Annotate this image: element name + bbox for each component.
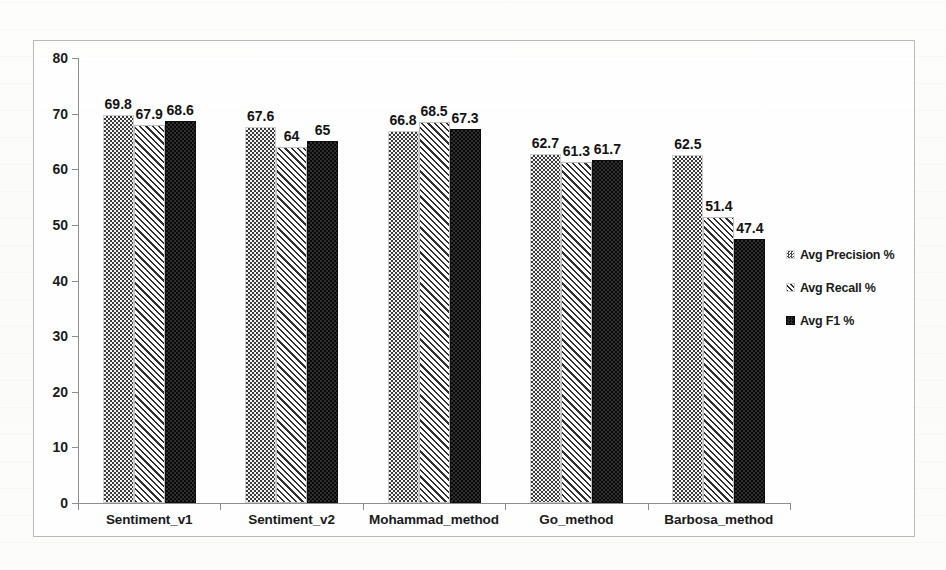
x-axis-tick — [363, 503, 364, 510]
y-axis-tick — [72, 447, 79, 448]
y-axis-tick-label: 60 — [28, 161, 68, 177]
bar-avg-precision — [530, 154, 561, 503]
legend-item[interactable]: Avg Recall % — [786, 281, 911, 294]
x-axis-line — [78, 503, 791, 504]
legend-item[interactable]: Avg F1 % — [786, 314, 911, 327]
bar-avg-recall — [561, 162, 592, 503]
bar-avg-precision — [103, 115, 134, 503]
y-axis-tick — [72, 281, 79, 282]
bar-avg-precision — [245, 127, 276, 503]
bar-value-label: 62.5 — [663, 136, 712, 152]
y-axis-tick-label: 80 — [28, 50, 68, 66]
y-axis-tick — [72, 58, 79, 59]
bar-avg-f1 — [165, 121, 196, 503]
x-axis-tick — [790, 503, 791, 510]
dark-dotted-swatch — [786, 316, 795, 325]
bar-avg-f1 — [307, 141, 338, 503]
y-axis-tick-label: 70 — [28, 106, 68, 122]
x-axis-category-label: Barbosa_method — [648, 512, 790, 527]
bar-value-label: 67.6 — [236, 108, 285, 124]
x-axis-tick — [78, 503, 79, 510]
y-axis-tick-label: 50 — [28, 217, 68, 233]
legend-item-label: Avg Recall % — [800, 281, 876, 295]
y-axis-tick — [72, 169, 79, 170]
x-axis-category-label: Sentiment_v2 — [220, 512, 362, 527]
light-dotted-swatch — [786, 250, 795, 259]
y-axis-tick-label: 10 — [28, 439, 68, 455]
bar-value-label: 65 — [298, 122, 347, 138]
legend-item[interactable]: Avg Precision % — [786, 248, 911, 261]
bar-avg-f1 — [592, 160, 623, 503]
x-axis-tick — [220, 503, 221, 510]
bar-avg-f1 — [450, 129, 481, 503]
bar-avg-precision — [388, 131, 419, 503]
y-axis-tick-label: 30 — [28, 328, 68, 344]
bar-avg-recall — [419, 122, 450, 503]
bar-avg-recall — [134, 125, 165, 503]
x-axis-category-label: Sentiment_v1 — [78, 512, 220, 527]
bar-value-label: 61.7 — [583, 141, 632, 157]
x-axis-tick — [505, 503, 506, 510]
bar-avg-recall — [703, 217, 734, 503]
y-axis-tick — [72, 336, 79, 337]
bar-value-label: 47.4 — [725, 220, 774, 236]
legend-item-label: Avg Precision % — [800, 248, 895, 262]
x-axis-category-label: Mohammad_method — [363, 512, 505, 527]
y-axis-tick-label: 20 — [28, 384, 68, 400]
diagonal-hatch-swatch — [786, 283, 795, 292]
bar-avg-recall — [276, 147, 307, 503]
legend-item-label: Avg F1 % — [800, 314, 854, 328]
y-axis-tick-label: 0 — [28, 495, 68, 511]
chart-legend: Avg Precision %Avg Recall %Avg F1 % — [786, 248, 911, 347]
bar-value-label: 68.6 — [156, 102, 205, 118]
bar-value-label: 67.3 — [441, 110, 490, 126]
bar-value-label: 51.4 — [694, 198, 743, 214]
y-axis-tick — [72, 114, 79, 115]
y-axis-tick — [72, 225, 79, 226]
bar-avg-f1 — [734, 239, 765, 503]
x-axis-tick — [648, 503, 649, 510]
x-axis-category-label: Go_method — [505, 512, 647, 527]
y-axis-tick-label: 40 — [28, 273, 68, 289]
y-axis-tick — [72, 392, 79, 393]
